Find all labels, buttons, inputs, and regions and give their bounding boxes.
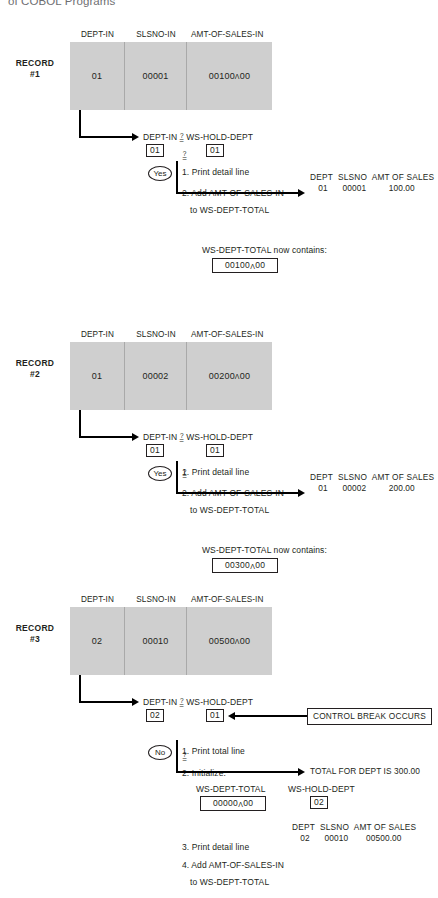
column-header-slsno-3: SLSNO-IN	[125, 595, 187, 604]
steps-bar-3	[176, 740, 178, 773]
control-break-annotation: CONTROL BREAK OCCURS	[307, 708, 432, 725]
column-header-dept-3: DEPT-IN	[70, 595, 125, 604]
record-cell-amt-3: 00500Λ00	[187, 607, 272, 675]
record-cell-dept-2: 01	[70, 342, 125, 410]
total-note-2: WS-DEPT-TOTAL now contains:	[202, 545, 327, 555]
record-cell-amt-1: 00100Λ00	[187, 42, 272, 110]
connector-vertical-2	[79, 410, 81, 438]
record-box-2: 01 00002 00200Λ00	[70, 342, 272, 410]
report-arrow-head-2	[298, 489, 305, 497]
column-header-slsno-2: SLSNO-IN	[125, 330, 187, 339]
steps-bar-1	[176, 161, 178, 194]
report-header-row-2: DEPT SLSNO AMT OF SALES	[310, 472, 434, 483]
report-value-row-2: 01 00002 200.00	[310, 483, 434, 494]
report-val-slsno-2: 00002	[338, 483, 370, 494]
connector-horizontal-1	[79, 136, 132, 138]
column-headers-1: DEPT-IN SLSNO-IN AMT-OF-SALES-IN	[70, 30, 281, 39]
total-value-box-1: 00100Λ00	[212, 258, 278, 273]
comparison-expression-3: DEPT-IN?=WS-HOLD-DEPT	[143, 697, 253, 708]
total-value-dec-1: 00	[255, 260, 265, 270]
connector-vertical-1	[79, 110, 81, 138]
report-val-slsno-3: 00010	[320, 833, 352, 844]
control-break-arrowhead	[228, 712, 235, 720]
record-label-line1-2: RECORD	[8, 358, 62, 369]
step-3-3: 3. Print detail line	[182, 842, 249, 852]
column-header-dept-2: DEPT-IN	[70, 330, 125, 339]
comparison-operator-1: ?=	[177, 133, 186, 143]
column-header-amt-1: AMT-OF-SALES-IN	[187, 30, 281, 39]
step-4-cont-3: to WS-DEPT-TOTAL	[190, 877, 269, 887]
record-cell-slsno-3: 00010	[125, 607, 187, 675]
report-val-dept-1: 01	[310, 183, 336, 194]
steps-bar-2	[176, 461, 178, 494]
comparison-equals-3: =	[177, 703, 186, 708]
total-value-int-2: 00300	[225, 560, 250, 570]
record-box-1: 01 00001 00100Λ00	[70, 42, 272, 110]
record-amt-int-3: 00500	[209, 636, 235, 646]
running-header: of COBOL Programs	[8, 0, 115, 7]
report-hdr-dept-1: DEPT	[310, 172, 333, 182]
record-cell-amt-2: 00200Λ00	[187, 342, 272, 410]
init-hold-value-box: 02	[310, 796, 328, 809]
report-output-3: DEPT SLSNO AMT OF SALES 02 00010 00500.0…	[292, 822, 416, 843]
step-1-1: 1. Print detail line	[182, 167, 249, 177]
comparison-equals-1: =	[177, 138, 186, 143]
connector-arrowhead-2	[132, 433, 139, 441]
branch-oval-no-3: No	[148, 745, 172, 760]
total-line-arrow	[176, 771, 298, 773]
report-hdr-amt-3: AMT OF SALES	[354, 822, 417, 832]
report-val-amt-3: 00500.00	[355, 833, 413, 844]
step-2-cont-2: to WS-DEPT-TOTAL	[190, 505, 269, 515]
step-1-3: 1. Print total line	[182, 746, 245, 756]
comparison-operator-lower-1: ? =	[180, 151, 189, 161]
total-value-dec-2: 00	[255, 560, 265, 570]
comparison-expression-2: DEPT-IN?=WS-HOLD-DEPT	[143, 432, 253, 443]
connector-arrowhead-3	[132, 698, 139, 706]
record-label-1: RECORD #1	[8, 58, 62, 80]
report-val-amt-1: 100.00	[373, 183, 431, 194]
init-total-label: WS-DEPT-TOTAL	[196, 784, 265, 794]
column-headers-2: DEPT-IN SLSNO-IN AMT-OF-SALES-IN	[70, 330, 281, 339]
total-value-box-2: 00300Λ00	[212, 558, 278, 573]
step-2-3: 2. Initialize:	[182, 768, 226, 778]
record-amt-dec-3: 00	[240, 636, 250, 646]
column-header-dept-1: DEPT-IN	[70, 30, 125, 39]
report-hdr-slsno-1: SLSNO	[338, 172, 367, 182]
branch-oval-yes-2: Yes	[148, 466, 172, 481]
report-val-slsno-1: 00001	[338, 183, 370, 194]
comparison-left-value-3: 02	[146, 709, 164, 722]
report-arrow-line-2	[176, 492, 298, 494]
comparison-left-3: DEPT-IN	[143, 697, 177, 707]
record-box-3: 02 00010 00500Λ00	[70, 607, 272, 675]
record-label-3: RECORD #3	[8, 623, 62, 645]
comparison-right-1: WS-HOLD-DEPT	[186, 132, 253, 142]
record-cell-dept-3: 02	[70, 607, 125, 675]
report-arrow-line-1	[176, 192, 298, 194]
column-headers-3: DEPT-IN SLSNO-IN AMT-OF-SALES-IN	[70, 595, 281, 604]
comparison-expression-1: DEPT-IN?=WS-HOLD-DEPT	[143, 132, 253, 143]
report-header-row-3: DEPT SLSNO AMT OF SALES	[292, 822, 416, 833]
record-amt-dec-2: 00	[240, 371, 250, 381]
report-val-dept-2: 01	[310, 483, 336, 494]
control-break-arrow-line	[235, 715, 307, 717]
total-note-1: WS-DEPT-TOTAL now contains:	[202, 245, 327, 255]
report-header-row-1: DEPT SLSNO AMT OF SALES	[310, 172, 434, 183]
connector-horizontal-3	[79, 701, 132, 703]
init-total-value-dec: 00	[243, 798, 253, 808]
connector-horizontal-2	[79, 436, 132, 438]
column-header-amt-3: AMT-OF-SALES-IN	[187, 595, 281, 604]
report-val-dept-3: 02	[292, 833, 318, 844]
init-total-value-box: 00000Λ00	[200, 796, 266, 811]
record-label-2: RECORD #2	[8, 358, 62, 380]
record-amt-dec-1: 00	[240, 71, 250, 81]
comparison-right-value-1: 01	[206, 144, 224, 157]
init-total-value-int: 00000	[213, 798, 238, 808]
report-hdr-amt-2: AMT OF SALES	[372, 472, 435, 482]
record-amt-int-1: 00100	[209, 71, 235, 81]
record-amt-int-2: 00200	[209, 371, 235, 381]
comparison-right-3: WS-HOLD-DEPT	[186, 697, 253, 707]
column-header-amt-2: AMT-OF-SALES-IN	[187, 330, 281, 339]
record-cell-dept-1: 01	[70, 42, 125, 110]
comparison-equals-lower-3: =	[180, 757, 189, 762]
report-hdr-slsno-2: SLSNO	[338, 472, 367, 482]
